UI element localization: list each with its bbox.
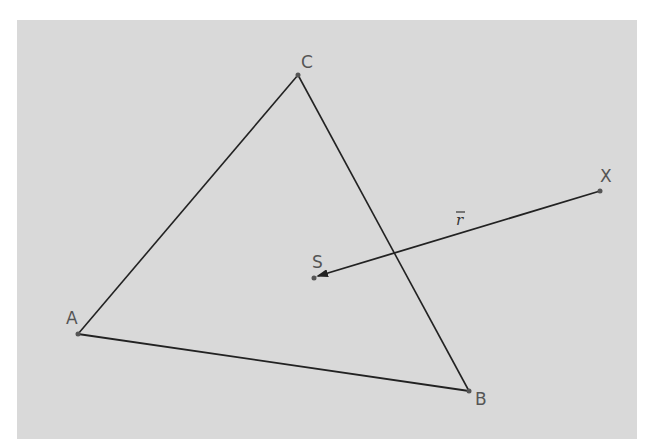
point-s xyxy=(312,276,317,281)
triangle-vector-diagram: A B C S X r xyxy=(0,0,651,439)
label-s: S xyxy=(312,252,323,272)
point-x xyxy=(598,189,603,194)
side-ca xyxy=(78,75,298,334)
label-a: A xyxy=(66,308,78,328)
label-b: B xyxy=(475,389,487,409)
point-c xyxy=(296,73,301,78)
triangle-abc xyxy=(78,75,469,391)
label-x: X xyxy=(600,166,612,186)
side-bc xyxy=(298,75,469,391)
vector-r-text: r xyxy=(456,211,464,229)
point-a xyxy=(76,332,81,337)
vector-r-arrow xyxy=(318,191,600,276)
vector-r-label: r xyxy=(456,211,465,229)
label-c: C xyxy=(301,52,313,72)
point-b xyxy=(467,389,472,394)
side-ab xyxy=(78,334,469,391)
